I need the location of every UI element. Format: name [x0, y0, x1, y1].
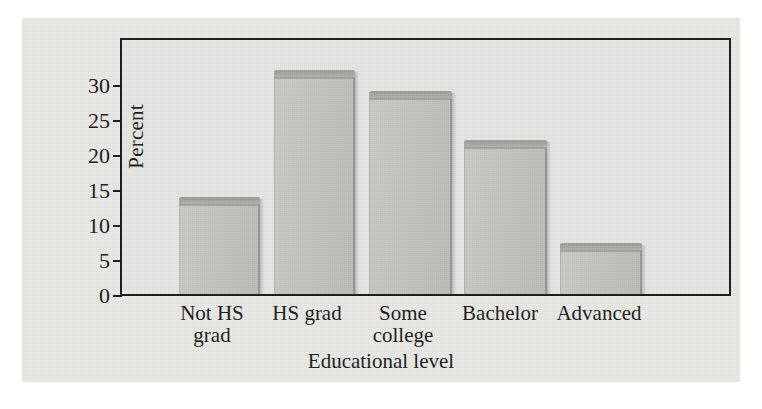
bar-top-face	[369, 91, 452, 99]
bar-side-shadow	[545, 142, 551, 294]
y-tick-label-25: 25	[76, 110, 110, 132]
y-tick-label-30: 30	[76, 75, 110, 97]
bar-top-face	[560, 243, 642, 251]
bar-hs-grad	[274, 77, 355, 294]
bar-side-shadow	[258, 199, 264, 294]
bar-bachelor	[464, 147, 547, 294]
bar-side-shadow	[640, 245, 646, 294]
bar-side-shadow	[450, 93, 456, 294]
y-tick-label-5: 5	[76, 250, 110, 272]
bar-top-face	[274, 70, 355, 78]
y-tick-mark-0	[113, 295, 122, 297]
y-tick-label-10: 10	[76, 215, 110, 237]
x-label-line-2: grad	[152, 324, 272, 346]
x-label-advanced: Advanced	[534, 302, 664, 324]
y-tick-mark-15	[113, 190, 122, 192]
y-tick-mark-25	[113, 120, 122, 122]
plot-area: Percent 0 5 10 15 20 25 30	[122, 40, 729, 294]
bar-advanced	[560, 250, 642, 294]
plot-frame: Percent 0 5 10 15 20 25 30	[120, 38, 731, 296]
y-tick-mark-5	[113, 260, 122, 262]
bar-top-face	[464, 140, 547, 148]
x-axis-title: Educational level	[22, 349, 740, 374]
y-tick-label-15: 15	[76, 180, 110, 202]
y-axis-title: Percent	[124, 47, 149, 227]
bar-top-face	[179, 197, 260, 205]
bar-some-college	[369, 98, 452, 294]
bar-not-hs-grad	[179, 204, 260, 294]
y-tick-mark-10	[113, 225, 122, 227]
y-tick-mark-30	[113, 85, 122, 87]
y-tick-label-20: 20	[76, 145, 110, 167]
figure-panel: Percent 0 5 10 15 20 25 30	[22, 18, 740, 382]
y-tick-mark-20	[113, 155, 122, 157]
bar-side-shadow	[353, 72, 359, 294]
x-label-line-2: college	[343, 324, 463, 346]
y-tick-label-0: 0	[76, 285, 110, 307]
x-label-line-1: Advanced	[534, 302, 664, 324]
